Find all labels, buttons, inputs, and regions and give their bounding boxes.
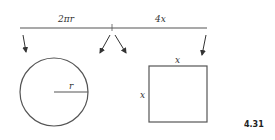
wire-cut-diagram: 2πr 4x r x x 4.31 <box>0 0 275 140</box>
segment-left-label: 2πr <box>57 14 75 24</box>
square-side-label: x <box>140 90 145 100</box>
arrow-left-end-icon <box>23 35 26 52</box>
arrow-right-end-icon <box>202 35 206 55</box>
square-shape <box>149 66 207 122</box>
radius-label: r <box>69 81 74 91</box>
segment-right-label: 4x <box>154 14 166 24</box>
figure-number: 4.31 <box>244 120 264 129</box>
arrow-cut-left-icon <box>100 35 110 53</box>
square-top-label: x <box>175 55 180 65</box>
arrow-cut-right-icon <box>115 35 126 53</box>
